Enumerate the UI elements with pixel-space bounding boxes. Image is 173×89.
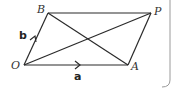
vector-label-a: a	[74, 70, 81, 83]
point-label-P: P	[153, 5, 162, 18]
diagonal-BA	[48, 13, 128, 65]
frame-border	[162, 0, 170, 87]
vector-label-b: b	[19, 29, 27, 42]
point-label-O: O	[11, 59, 20, 72]
point-label-A: A	[130, 60, 139, 73]
point-label-B: B	[36, 3, 45, 16]
parallelogram-diagram: O A B P a b	[0, 0, 173, 89]
